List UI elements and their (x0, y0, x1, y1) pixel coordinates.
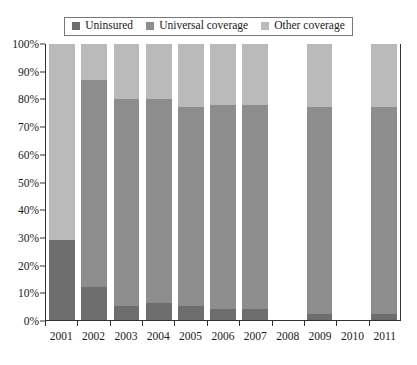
legend-label: Other coverage (274, 20, 345, 32)
bar-segment[interactable] (307, 44, 333, 107)
legend-label: Universal coverage (159, 20, 248, 32)
legend-swatch-icon (72, 22, 80, 30)
bar-slot-2007 (239, 44, 271, 320)
bar-segment[interactable] (307, 314, 333, 320)
bar-segment[interactable] (114, 44, 140, 99)
bar-slot-2005 (175, 44, 207, 320)
x-axis-tick-label: 2002 (82, 330, 105, 351)
bar-slot-2011 (368, 44, 400, 320)
bars-container (46, 44, 400, 320)
bar-slot-2002 (78, 44, 110, 320)
x-axis-tick-mark (174, 321, 175, 326)
x-axis-slot: 2010 (336, 321, 368, 351)
x-axis-slot: 2004 (142, 321, 174, 351)
x-axis-slot: 2001 (45, 321, 77, 351)
x-axis-slot: 2003 (110, 321, 142, 351)
y-axis-tick-label: 90% (18, 66, 39, 78)
x-axis-slot: 2008 (272, 321, 304, 351)
x-axis-tick-label: 2008 (276, 330, 299, 351)
bar-segment[interactable] (146, 44, 172, 99)
y-axis-tick-label: 60% (18, 149, 39, 161)
x-axis-slot: 2009 (304, 321, 336, 351)
bar-segment[interactable] (49, 240, 75, 320)
stacked-bar[interactable] (49, 44, 75, 320)
bar-segment[interactable] (210, 105, 236, 309)
bar-slot-2004 (143, 44, 175, 320)
bar-segment[interactable] (146, 99, 172, 303)
legend-item-uninsured: Uninsured (72, 20, 133, 32)
x-axis-slot: 2007 (239, 321, 271, 351)
bar-segment[interactable] (178, 107, 204, 306)
x-axis-tick-mark (336, 321, 337, 326)
bar-segment[interactable] (178, 306, 204, 320)
bar-slot-2009 (304, 44, 336, 320)
bar-segment[interactable] (210, 44, 236, 105)
bar-slot-2003 (110, 44, 142, 320)
y-axis: 0%10%20%30%40%50%60%70%80%90%100% (0, 44, 45, 321)
bar-segment[interactable] (146, 303, 172, 320)
x-axis: 2001200220032004200520062007200820092010… (45, 321, 401, 351)
y-axis-tick-label: 0% (24, 315, 39, 327)
bar-segment[interactable] (371, 107, 397, 314)
x-axis-slot: 2002 (77, 321, 109, 351)
legend-box: Uninsured Universal coverage Other cover… (64, 17, 353, 36)
x-axis-tick-label: 2010 (341, 330, 364, 351)
bar-segment[interactable] (114, 99, 140, 306)
x-axis-slot: 2005 (174, 321, 206, 351)
plot-area (45, 44, 401, 321)
x-axis-tick-mark (142, 321, 143, 326)
x-axis-tick-label: 2001 (50, 330, 73, 351)
legend-swatch-icon (261, 22, 269, 30)
legend-label: Uninsured (85, 20, 133, 32)
bar-segment[interactable] (307, 107, 333, 314)
y-axis-tick-label: 80% (18, 93, 39, 105)
y-axis-tick-label: 10% (18, 287, 39, 299)
bar-segment[interactable] (371, 314, 397, 320)
stacked-bar[interactable] (242, 44, 268, 320)
bar-segment[interactable] (242, 105, 268, 309)
bar-segment[interactable] (371, 44, 397, 107)
x-axis-tick-label: 2011 (373, 330, 396, 351)
chart-legend: Uninsured Universal coverage Other cover… (0, 17, 417, 36)
x-axis-tick-label: 2007 (244, 330, 267, 351)
stacked-bar[interactable] (210, 44, 236, 320)
y-axis-tick-label: 100% (12, 38, 39, 50)
stacked-bar[interactable] (114, 44, 140, 320)
x-axis-slot: 2006 (207, 321, 239, 351)
bar-segment[interactable] (242, 309, 268, 320)
stacked-bar[interactable] (307, 44, 333, 320)
y-axis-tick-label: 50% (18, 177, 39, 189)
x-axis-tick-mark (77, 321, 78, 326)
y-axis-tick-label: 20% (18, 260, 39, 272)
bar-slot-2006 (207, 44, 239, 320)
bar-segment[interactable] (81, 80, 107, 287)
bar-slot-2010 (336, 44, 368, 320)
y-axis-tick-label: 70% (18, 121, 39, 133)
x-axis-tick-label: 2004 (147, 330, 170, 351)
y-axis-tick-label: 30% (18, 232, 39, 244)
stacked-bar[interactable] (371, 44, 397, 320)
stacked-bar[interactable] (81, 44, 107, 320)
legend-item-other-coverage: Other coverage (261, 20, 345, 32)
bar-slot-2001 (46, 44, 78, 320)
x-axis-tick-mark (304, 321, 305, 326)
y-axis-tick-label: 40% (18, 204, 39, 216)
x-axis-tick-mark (207, 321, 208, 326)
bar-segment[interactable] (242, 44, 268, 105)
bar-slot-2008 (271, 44, 303, 320)
x-axis-tick-label: 2009 (309, 330, 332, 351)
bar-segment[interactable] (81, 287, 107, 320)
bar-segment[interactable] (114, 306, 140, 320)
bar-segment[interactable] (178, 44, 204, 107)
bar-segment[interactable] (81, 44, 107, 80)
legend-swatch-icon (146, 22, 154, 30)
bar-segment[interactable] (210, 309, 236, 320)
stacked-bar[interactable] (178, 44, 204, 320)
stacked-bar[interactable] (146, 44, 172, 320)
x-axis-tick-label: 2006 (211, 330, 234, 351)
legend-item-universal-coverage: Universal coverage (146, 20, 248, 32)
x-axis-tick-mark (45, 321, 46, 326)
stacked-bar-chart: Uninsured Universal coverage Other cover… (0, 0, 417, 365)
x-axis-tick-mark (272, 321, 273, 326)
bar-segment[interactable] (49, 44, 75, 240)
